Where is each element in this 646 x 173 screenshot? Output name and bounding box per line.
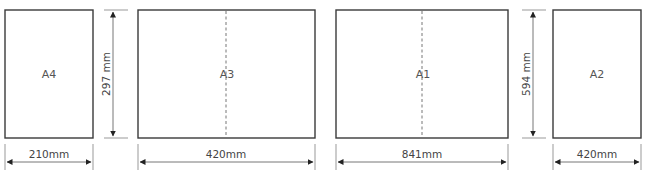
diagram-canvas: A4 297 mm 210mm A3 420mm xyxy=(0,0,646,173)
sheet-a4-label: A4 xyxy=(42,68,57,81)
dimension-a1-width: 841mm xyxy=(336,144,508,170)
dimension-a4-height: 297 mm xyxy=(100,10,128,138)
dimension-a1-width-label: 841mm xyxy=(402,148,443,160)
dimension-a3-width: 420mm xyxy=(138,144,315,170)
sheet-a1: A1 xyxy=(336,10,508,138)
sheet-a2: A2 xyxy=(553,10,641,138)
dimension-a2-width: 420mm xyxy=(553,144,641,170)
dimension-a4-width: 210mm xyxy=(5,144,93,170)
sheet-a3-label: A3 xyxy=(220,68,235,81)
dimension-a4-width-label: 210mm xyxy=(29,148,70,160)
dimension-a4-height-label: 297 mm xyxy=(100,52,112,96)
paper-size-diagram: A4 297 mm 210mm A3 420mm xyxy=(0,0,646,173)
sheet-a4: A4 xyxy=(5,10,93,138)
sheet-a1-label: A1 xyxy=(416,68,431,81)
dimension-a2-height: 594 mm xyxy=(520,10,546,138)
dimension-a3-width-label: 420mm xyxy=(206,148,247,160)
dimension-a2-width-label: 420mm xyxy=(577,148,618,160)
sheet-a2-label: A2 xyxy=(590,68,605,81)
sheet-a3: A3 xyxy=(138,10,315,138)
dimension-a2-height-label: 594 mm xyxy=(520,52,532,96)
